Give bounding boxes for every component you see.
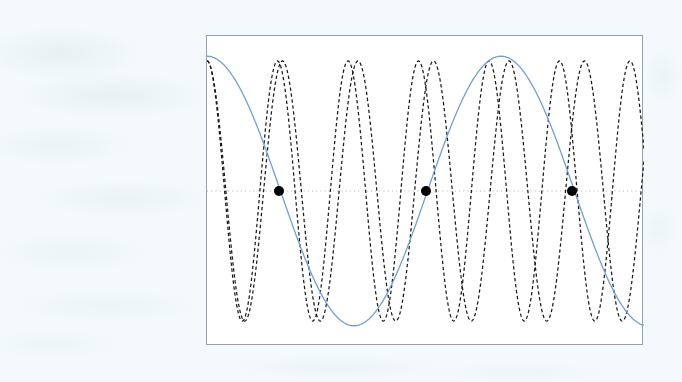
paper-texture-right: [643, 0, 682, 382]
plot-figure: [206, 35, 643, 345]
paper-texture-bottom: [206, 345, 643, 382]
intersection-marker-3: [567, 186, 577, 196]
intersection-marker-2: [421, 186, 431, 196]
plot-canvas: [207, 36, 644, 346]
page-root: [0, 0, 682, 382]
intersection-marker-1: [274, 186, 284, 196]
paper-texture-left: [0, 0, 206, 382]
